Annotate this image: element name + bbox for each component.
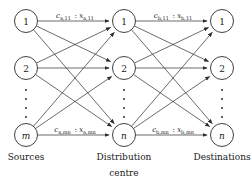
ellipsis-dot-sources-0 [25, 89, 27, 91]
node-label-sources-1: 1 [23, 17, 29, 27]
ellipsis-dot-distribution-centre-3 [123, 116, 125, 118]
ellipsis-dot-distribution-centre-2 [123, 107, 125, 109]
ellipsis-dot-destinations-2 [221, 107, 223, 109]
edge-a-1-2 [35, 74, 111, 126]
label-b-11: cb,11 : xb,11 [154, 12, 193, 21]
caption-distribution-centre-line2: centre [109, 168, 138, 178]
node-label-destinations-1: 1 [219, 17, 225, 27]
ellipsis-dot-distribution-centre-0 [123, 89, 125, 91]
ellipsis-dot-destinations-3 [221, 116, 223, 118]
node-label-sources-2: 2 [23, 64, 29, 74]
edge-a-0-1 [36, 26, 110, 62]
edge-b-2-0 [131, 32, 212, 126]
column-caption-group: SourcesDistributioncentreDestinations [8, 152, 251, 178]
edge-a-2-1 [35, 76, 111, 128]
label-b-mn: cb,mn : xb,mn [152, 126, 194, 135]
edge-b-1-2 [133, 74, 209, 126]
ellipsis-dot-destinations-1 [221, 98, 223, 100]
label-a-mn: ca,mn : xa,mn [54, 126, 96, 135]
diagram-canvas: 12m12n12n ca,11 : xa,11cb,11 : xb,11ca,m… [0, 0, 252, 186]
label-a-11: ca,11 : xa,11 [56, 12, 94, 21]
ellipsis-dot-destinations-0 [221, 89, 223, 91]
node-group: 12m12n12n [15, 10, 234, 147]
edge-a-1-0 [36, 27, 110, 63]
ellipsis-dot-sources-2 [25, 107, 27, 109]
node-label-distribution-centre-2: 2 [121, 64, 127, 74]
node-label-sources-m: m [22, 131, 31, 141]
edge-b-0-1 [134, 26, 208, 62]
node-label-distribution-centre-1: 1 [121, 17, 127, 27]
node-label-distribution-centre-n: n [121, 131, 127, 141]
edges-sources-to-distribution [33, 21, 114, 135]
vertical-ellipsis-group [25, 89, 223, 118]
edge-b-1-0 [134, 27, 208, 63]
node-label-destinations-2: 2 [219, 64, 225, 74]
edges-distribution-to-destinations [131, 21, 212, 135]
ellipsis-dot-sources-1 [25, 98, 27, 100]
ellipsis-dot-distribution-centre-1 [123, 98, 125, 100]
caption-destinations: Destinations [193, 152, 251, 162]
node-label-destinations-n: n [219, 131, 225, 141]
edge-b-2-1 [133, 76, 209, 128]
caption-distribution-centre: Distribution [97, 152, 152, 162]
edge-a-2-0 [33, 32, 114, 126]
ellipsis-dot-sources-3 [25, 116, 27, 118]
caption-sources: Sources [8, 152, 45, 162]
network-diagram: 12m12n12n ca,11 : xa,11cb,11 : xb,11ca,m… [0, 0, 252, 186]
